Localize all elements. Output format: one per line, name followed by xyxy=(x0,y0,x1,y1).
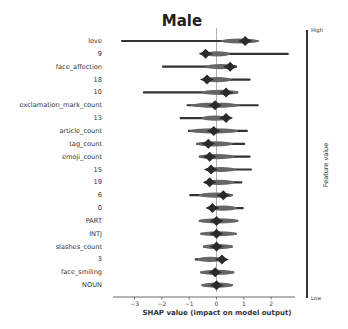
feature-label: exclamation_mark_count xyxy=(19,101,102,109)
feature-row xyxy=(121,36,259,46)
feature-row xyxy=(199,49,289,59)
x-tick-label: −2 xyxy=(155,300,169,307)
feature-row xyxy=(205,203,243,213)
colorbar-title: Feature value xyxy=(322,135,330,195)
feature-label: NOUN xyxy=(82,281,102,289)
feature-row xyxy=(203,242,233,252)
x-tick-label: −3 xyxy=(128,300,142,307)
feature-rows xyxy=(121,36,289,290)
feature-label: 19 xyxy=(94,178,102,186)
x-tick-label: 2 xyxy=(264,300,278,307)
feature-row xyxy=(199,152,251,162)
colorbar-low-label: Low xyxy=(311,295,321,301)
chart-title: Male xyxy=(150,12,214,30)
feature-label: 15 xyxy=(94,166,102,174)
feature-row xyxy=(186,100,258,110)
feature-row xyxy=(201,280,232,290)
x-tick-label: 1 xyxy=(237,300,251,307)
feature-row xyxy=(195,254,229,264)
x-tick-label: 0 xyxy=(210,300,224,307)
feature-label: face_smiling xyxy=(61,268,102,276)
feature-row xyxy=(189,190,233,200)
feature-label: 3 xyxy=(98,255,102,263)
feature-row xyxy=(199,216,239,226)
feature-row xyxy=(196,139,245,149)
feature-label: 6 xyxy=(98,191,102,199)
feature-label: 9 xyxy=(98,50,102,58)
feature-row xyxy=(143,87,239,97)
feature-label: slashes_count xyxy=(56,243,102,251)
feature-label: PART xyxy=(86,217,102,225)
feature-label: 18 xyxy=(94,76,102,84)
feature-label: INTJ xyxy=(89,230,102,238)
feature-label: 13 xyxy=(94,114,102,122)
feature-row xyxy=(200,229,237,239)
feature-label: 0 xyxy=(98,204,102,212)
feature-label: tag_count xyxy=(69,140,102,148)
feature-row xyxy=(203,177,243,187)
feature-row xyxy=(204,165,252,175)
feature-label: love xyxy=(88,37,102,45)
x-axis-label: SHAP value (impact on model output) xyxy=(140,309,294,317)
feature-label: 10 xyxy=(94,88,102,96)
feature-row xyxy=(162,62,237,72)
feature-row xyxy=(188,126,248,136)
feature-label: face_affection xyxy=(56,63,102,71)
colorbar-high-label: High xyxy=(311,27,323,33)
feature-row xyxy=(200,75,251,85)
x-tick-label: −1 xyxy=(182,300,196,307)
feature-label: article_count xyxy=(59,127,102,135)
feature-label: emoji_count xyxy=(62,153,102,161)
shap-beeswarm-plot xyxy=(0,0,348,329)
feature-row xyxy=(200,267,234,277)
feature-row xyxy=(180,113,233,123)
colorbar xyxy=(306,30,308,298)
